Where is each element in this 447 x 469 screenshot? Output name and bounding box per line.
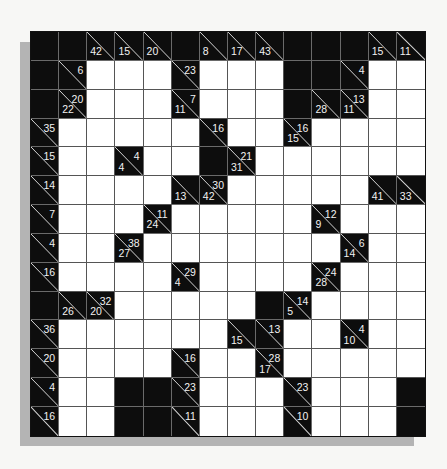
entry-cell[interactable] xyxy=(397,320,425,349)
entry-cell[interactable] xyxy=(115,263,143,292)
entry-cell[interactable] xyxy=(369,349,397,378)
entry-cell[interactable] xyxy=(397,61,425,90)
entry-cell[interactable] xyxy=(341,205,369,234)
entry-cell[interactable] xyxy=(397,349,425,378)
entry-cell[interactable] xyxy=(228,378,256,407)
entry-cell[interactable] xyxy=(172,320,200,349)
entry-cell[interactable] xyxy=(200,407,228,436)
entry-cell[interactable] xyxy=(228,349,256,378)
entry-cell[interactable] xyxy=(144,320,172,349)
entry-cell[interactable] xyxy=(256,90,284,119)
entry-cell[interactable] xyxy=(200,349,228,378)
entry-cell[interactable] xyxy=(59,234,87,263)
entry-cell[interactable] xyxy=(87,378,115,407)
entry-cell[interactable] xyxy=(228,90,256,119)
entry-cell[interactable] xyxy=(284,147,312,176)
entry-cell[interactable] xyxy=(87,90,115,119)
entry-cell[interactable] xyxy=(284,320,312,349)
entry-cell[interactable] xyxy=(341,378,369,407)
entry-cell[interactable] xyxy=(369,90,397,119)
entry-cell[interactable] xyxy=(87,349,115,378)
entry-cell[interactable] xyxy=(200,61,228,90)
entry-cell[interactable] xyxy=(144,263,172,292)
entry-cell[interactable] xyxy=(228,263,256,292)
entry-cell[interactable] xyxy=(256,147,284,176)
entry-cell[interactable] xyxy=(200,234,228,263)
entry-cell[interactable] xyxy=(341,147,369,176)
entry-cell[interactable] xyxy=(172,205,200,234)
entry-cell[interactable] xyxy=(144,234,172,263)
entry-cell[interactable] xyxy=(115,90,143,119)
entry-cell[interactable] xyxy=(256,176,284,205)
entry-cell[interactable] xyxy=(228,176,256,205)
entry-cell[interactable] xyxy=(200,205,228,234)
entry-cell[interactable] xyxy=(369,292,397,321)
entry-cell[interactable] xyxy=(369,205,397,234)
entry-cell[interactable] xyxy=(284,176,312,205)
entry-cell[interactable] xyxy=(284,263,312,292)
entry-cell[interactable] xyxy=(397,234,425,263)
entry-cell[interactable] xyxy=(59,263,87,292)
entry-cell[interactable] xyxy=(200,263,228,292)
entry-cell[interactable] xyxy=(369,320,397,349)
entry-cell[interactable] xyxy=(59,407,87,436)
entry-cell[interactable] xyxy=(312,320,340,349)
entry-cell[interactable] xyxy=(397,119,425,148)
entry-cell[interactable] xyxy=(228,234,256,263)
entry-cell[interactable] xyxy=(200,320,228,349)
entry-cell[interactable] xyxy=(256,61,284,90)
entry-cell[interactable] xyxy=(256,407,284,436)
entry-cell[interactable] xyxy=(59,349,87,378)
entry-cell[interactable] xyxy=(312,349,340,378)
entry-cell[interactable] xyxy=(172,234,200,263)
entry-cell[interactable] xyxy=(369,119,397,148)
entry-cell[interactable] xyxy=(144,90,172,119)
entry-cell[interactable] xyxy=(115,349,143,378)
entry-cell[interactable] xyxy=(369,147,397,176)
entry-cell[interactable] xyxy=(312,407,340,436)
entry-cell[interactable] xyxy=(87,407,115,436)
entry-cell[interactable] xyxy=(341,407,369,436)
entry-cell[interactable] xyxy=(144,292,172,321)
entry-cell[interactable] xyxy=(256,378,284,407)
entry-cell[interactable] xyxy=(87,234,115,263)
entry-cell[interactable] xyxy=(397,205,425,234)
entry-cell[interactable] xyxy=(369,378,397,407)
entry-cell[interactable] xyxy=(115,292,143,321)
entry-cell[interactable] xyxy=(59,205,87,234)
entry-cell[interactable] xyxy=(312,119,340,148)
entry-cell[interactable] xyxy=(397,147,425,176)
entry-cell[interactable] xyxy=(369,61,397,90)
entry-cell[interactable] xyxy=(87,205,115,234)
entry-cell[interactable] xyxy=(369,263,397,292)
entry-cell[interactable] xyxy=(87,320,115,349)
entry-cell[interactable] xyxy=(172,147,200,176)
entry-cell[interactable] xyxy=(87,176,115,205)
entry-cell[interactable] xyxy=(200,378,228,407)
entry-cell[interactable] xyxy=(284,234,312,263)
entry-cell[interactable] xyxy=(59,320,87,349)
entry-cell[interactable] xyxy=(87,119,115,148)
entry-cell[interactable] xyxy=(59,147,87,176)
entry-cell[interactable] xyxy=(144,176,172,205)
entry-cell[interactable] xyxy=(144,61,172,90)
entry-cell[interactable] xyxy=(228,292,256,321)
entry-cell[interactable] xyxy=(312,378,340,407)
entry-cell[interactable] xyxy=(200,90,228,119)
entry-cell[interactable] xyxy=(87,263,115,292)
entry-cell[interactable] xyxy=(144,119,172,148)
entry-cell[interactable] xyxy=(172,292,200,321)
entry-cell[interactable] xyxy=(312,292,340,321)
entry-cell[interactable] xyxy=(200,292,228,321)
entry-cell[interactable] xyxy=(341,292,369,321)
entry-cell[interactable] xyxy=(59,176,87,205)
entry-cell[interactable] xyxy=(228,119,256,148)
entry-cell[interactable] xyxy=(369,407,397,436)
entry-cell[interactable] xyxy=(115,320,143,349)
entry-cell[interactable] xyxy=(115,61,143,90)
entry-cell[interactable] xyxy=(144,349,172,378)
entry-cell[interactable] xyxy=(256,263,284,292)
entry-cell[interactable] xyxy=(341,119,369,148)
entry-cell[interactable] xyxy=(341,263,369,292)
entry-cell[interactable] xyxy=(228,61,256,90)
